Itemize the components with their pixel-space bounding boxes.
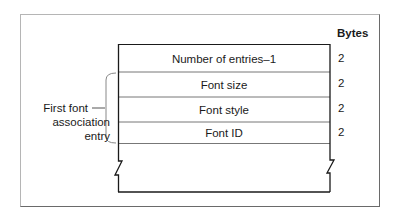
group-label-line3: entry (84, 129, 110, 143)
group-label-line1: First font (43, 101, 88, 115)
bytes-column-header: Bytes (337, 27, 368, 39)
bytes-number-of-entries: 2 (338, 52, 344, 64)
field-font-size: Font size (118, 72, 330, 97)
group-label-line2: association (52, 115, 110, 129)
bytes-font-size: 2 (338, 77, 344, 89)
field-font-style: Font style (118, 97, 330, 122)
field-number-of-entries: Number of entries–1 (118, 45, 330, 72)
field-font-id: Font ID (118, 122, 330, 143)
bytes-font-style: 2 (338, 102, 344, 114)
bytes-font-id: 2 (338, 126, 344, 138)
